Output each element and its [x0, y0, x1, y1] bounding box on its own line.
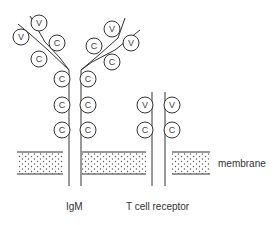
igm-c-domain: C — [59, 100, 66, 110]
tcr-v-domain: V — [142, 100, 148, 110]
tcr-label: T cell receptor — [126, 201, 189, 212]
igm-c-domain: C — [59, 125, 66, 135]
igm-c-domain: C — [85, 125, 92, 135]
diagram-canvas: V V C C V C V C C C C C C C V V C C memb… — [0, 0, 278, 225]
tcr-c-domain: C — [142, 125, 149, 135]
membrane-layer — [17, 152, 210, 174]
tcr-c-domain: C — [169, 125, 176, 135]
igm-v-domain: V — [109, 24, 115, 34]
membrane-label: membrane — [218, 158, 266, 169]
igm-c-domain: C — [85, 74, 92, 84]
tcr-v-domain: V — [169, 100, 175, 110]
igm-c-domain: C — [59, 74, 66, 84]
igm-c-domain: C — [85, 100, 92, 110]
igm-c-domain: C — [109, 57, 116, 67]
igm-c-domain: C — [91, 41, 98, 51]
igm-v-domain: V — [128, 38, 134, 48]
igm-c-domain: C — [54, 38, 61, 48]
receptor-diagram: V V C C V C V C C C C C C C V V C C — [0, 0, 278, 225]
igm-v-domain: V — [36, 18, 42, 28]
igm-c-domain: C — [36, 54, 43, 64]
igm-v-domain: V — [18, 32, 24, 42]
igm-label: IgM — [66, 201, 83, 212]
